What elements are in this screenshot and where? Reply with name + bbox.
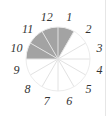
sector-label-3: 3 [96,41,103,55]
sector-label-1: 1 [66,10,72,24]
sector-label-6: 6 [66,94,72,108]
sector-label-8: 8 [25,82,31,96]
sector-label-5: 5 [85,82,91,96]
sector-label-11: 11 [22,22,33,36]
sector-label-9: 9 [13,63,19,77]
sector-label-2: 2 [85,22,91,36]
sector-label-7: 7 [44,94,51,108]
fraction-circle-diagram: 123456789101112 [0,0,108,116]
sector-label-10: 10 [10,41,22,55]
sector-label-4: 4 [97,63,103,77]
sector-label-12: 12 [41,10,53,24]
